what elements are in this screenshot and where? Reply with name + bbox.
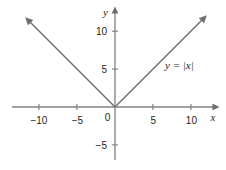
x-tick-label-5: 5	[151, 115, 157, 126]
y-axis	[112, 12, 118, 160]
origin-label: 0	[105, 112, 111, 123]
x-axis-label: x	[210, 111, 216, 123]
x-tick-label-neg5: −5	[72, 115, 84, 126]
x-tick-label-neg10: −10	[30, 115, 47, 126]
y-tick-label-5: 5	[101, 64, 107, 75]
y-tick-label-neg5: −5	[96, 140, 108, 151]
coordinate-plane: −10 −5 5 10 10 5 −5 0 y x y = |x|	[0, 0, 226, 170]
y-tick-label-10: 10	[96, 26, 108, 37]
equation-label: y = |x|	[164, 59, 194, 71]
x-tick-label-10: 10	[186, 115, 198, 126]
y-axis-label: y	[102, 6, 108, 18]
graph-figure: −10 −5 5 10 10 5 −5 0 y x y = |x|	[0, 0, 226, 170]
